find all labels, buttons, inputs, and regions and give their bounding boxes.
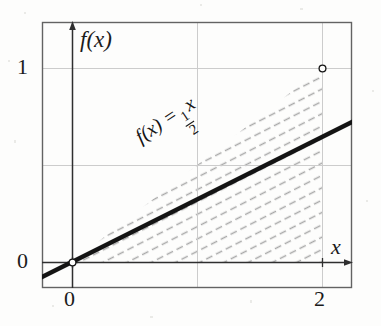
point-2-1 <box>319 65 326 72</box>
point-origin <box>69 259 76 266</box>
x-tick-label-0: 0 <box>64 288 75 310</box>
function-graph-figure: 1 0 0 2 f(x) x f(x) =12x <box>0 0 381 326</box>
y-tick-label-1: 1 <box>17 56 28 78</box>
x-axis-label: x <box>331 236 341 258</box>
graph-canvas <box>0 0 381 326</box>
y-tick-label-0: 0 <box>17 250 28 272</box>
x-tick-label-2: 2 <box>314 288 325 310</box>
y-axis-label: f(x) <box>80 28 112 51</box>
